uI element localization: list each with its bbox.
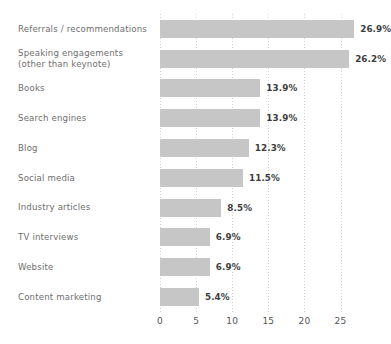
chart-row: Blog12.3% bbox=[0, 133, 370, 163]
bar-track bbox=[160, 109, 360, 127]
chart-row: Website6.9% bbox=[0, 252, 370, 282]
bar[interactable] bbox=[160, 50, 349, 68]
category-label: TV interviews bbox=[18, 232, 152, 243]
bar-value-label: 11.5% bbox=[249, 173, 280, 183]
category-label: Books bbox=[18, 83, 152, 94]
bar[interactable] bbox=[160, 139, 249, 157]
x-tick-label: 15 bbox=[262, 316, 274, 326]
category-label: Content marketing bbox=[18, 292, 152, 303]
x-tick-label: 20 bbox=[298, 316, 310, 326]
bar-track bbox=[160, 288, 360, 306]
category-label: Speaking engagements (other than keynote… bbox=[18, 48, 152, 69]
bar-track bbox=[160, 50, 360, 68]
bar-value-label: 5.4% bbox=[205, 292, 230, 302]
x-tick-label: 25 bbox=[335, 316, 347, 326]
bar-value-label: 6.9% bbox=[216, 262, 241, 272]
bar-track bbox=[160, 228, 360, 246]
chart-row: Referrals / recommendations26.9% bbox=[0, 14, 370, 44]
category-label: Search engines bbox=[18, 113, 152, 124]
x-tick-label: 0 bbox=[157, 316, 163, 326]
bar-track bbox=[160, 199, 360, 217]
bar-value-label: 12.3% bbox=[255, 143, 286, 153]
x-tick-label: 5 bbox=[193, 316, 199, 326]
chart-row: Books13.9% bbox=[0, 74, 370, 104]
bar-value-label: 13.9% bbox=[266, 83, 297, 93]
chart-row: Content marketing5.4% bbox=[0, 282, 370, 312]
bar-value-label: 26.9% bbox=[360, 24, 391, 34]
chart-row: Search engines13.9% bbox=[0, 103, 370, 133]
category-label: Social media bbox=[18, 173, 152, 184]
chart-row: Industry articles8.5% bbox=[0, 193, 370, 223]
bar[interactable] bbox=[160, 109, 260, 127]
chart-row: Social media11.5% bbox=[0, 163, 370, 193]
bar[interactable] bbox=[160, 288, 199, 306]
bar[interactable] bbox=[160, 169, 243, 187]
bar-value-label: 13.9% bbox=[266, 113, 297, 123]
category-label: Website bbox=[18, 262, 152, 273]
bar-track bbox=[160, 79, 360, 97]
bar-value-label: 6.9% bbox=[216, 232, 241, 242]
bar[interactable] bbox=[160, 199, 221, 217]
bar-track bbox=[160, 20, 360, 38]
bar[interactable] bbox=[160, 79, 260, 97]
category-label: Industry articles bbox=[18, 202, 152, 213]
chart-rows: Referrals / recommendations26.9%Speaking… bbox=[0, 14, 370, 312]
bar-value-label: 8.5% bbox=[227, 203, 252, 213]
bar[interactable] bbox=[160, 20, 354, 38]
x-tick-label: 10 bbox=[226, 316, 238, 326]
category-label: Referrals / recommendations bbox=[18, 24, 152, 35]
bar-track bbox=[160, 258, 360, 276]
bar-value-label: 26.2% bbox=[355, 54, 386, 64]
x-axis: 0510152025 bbox=[0, 316, 370, 334]
bar[interactable] bbox=[160, 258, 210, 276]
bar[interactable] bbox=[160, 228, 210, 246]
chart-row: Speaking engagements (other than keynote… bbox=[0, 44, 370, 74]
chart-row: TV interviews6.9% bbox=[0, 223, 370, 253]
category-label: Blog bbox=[18, 143, 152, 154]
